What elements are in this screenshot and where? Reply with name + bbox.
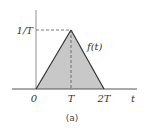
x-tick-2T: 2T [96, 93, 111, 104]
function-label: f(t) [86, 41, 103, 52]
figure-caption: (a) [66, 113, 79, 123]
triangle-pulse-diagram: 1/T f(t) 0 T 2T t (a) [0, 0, 147, 133]
x-axis-label: t [131, 93, 136, 104]
y-tick-label: 1/T [17, 25, 35, 36]
triangle-area [36, 30, 104, 89]
x-tick-0: 0 [31, 93, 38, 104]
x-tick-T: T [68, 93, 76, 104]
